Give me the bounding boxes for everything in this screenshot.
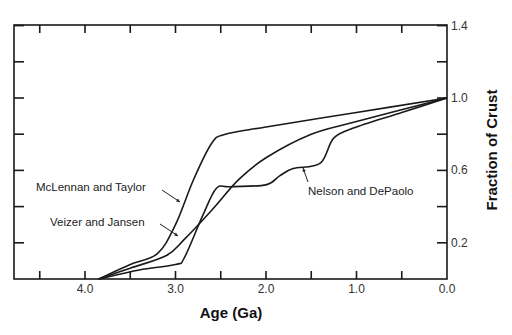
x-axis-title: Age (Ga) (200, 304, 263, 321)
y-tick-label: 1.4 (451, 19, 468, 33)
annotations: McLennan and TaylorVeizer and JansenNels… (36, 168, 414, 236)
y-tick-label: 0.6 (451, 163, 468, 177)
arrowhead-icon (303, 168, 306, 172)
annotation-label: Nelson and DePaolo (308, 185, 414, 197)
x-tick-label: 4.0 (77, 282, 94, 296)
y-tick-label: 0.2 (451, 236, 468, 250)
x-tick-label: 3.0 (167, 282, 184, 296)
x-tick-label: 0.0 (439, 282, 456, 296)
y-tick-label: 1.0 (451, 91, 468, 105)
annotation-label: McLennan and Taylor (36, 181, 146, 193)
y-axis-title: Fraction of Crust (483, 90, 500, 211)
crust-growth-chart: 4.03.02.01.00.0 0.20.61.01.4 McLennan an… (0, 0, 512, 335)
x-axis: 4.03.02.01.00.0 (40, 25, 456, 296)
x-tick-label: 1.0 (348, 282, 365, 296)
x-tick-label: 2.0 (258, 282, 275, 296)
plot-frame (14, 25, 447, 279)
annotation-label: Veizer and Jansen (50, 216, 145, 228)
